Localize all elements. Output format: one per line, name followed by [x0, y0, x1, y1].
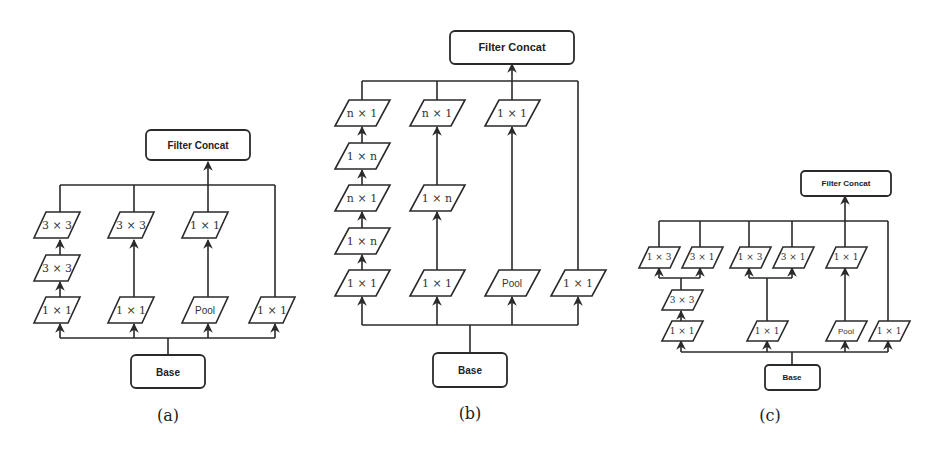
svg-text:3 × 3: 3 × 3	[42, 262, 72, 275]
node-b-b1-nx1-mid: n × 1	[335, 185, 390, 211]
caption-a: (a)	[157, 406, 179, 425]
panel-c: Filter Concat 1 × 3 3 × 1 1 × 3 3 × 1 1 …	[639, 171, 910, 425]
svg-text:Base: Base	[458, 365, 482, 376]
svg-text:1 × n: 1 × n	[422, 192, 452, 205]
node-a-b1-3x3-mid: 3 × 3	[34, 255, 80, 281]
node-b-b1-nx1-top: n × 1	[335, 100, 390, 126]
node-c-b3-pool: Pool	[826, 321, 867, 341]
node-c-b1-1x3: 1 × 3	[639, 247, 680, 268]
svg-text:3 × 1: 3 × 1	[781, 252, 806, 262]
svg-text:Pool: Pool	[838, 327, 854, 336]
svg-text:1 × 1: 1 × 1	[563, 277, 593, 290]
svg-text:1 × 3: 1 × 3	[738, 252, 763, 262]
node-c-b2-1x1: 1 × 1	[747, 321, 788, 341]
filter-concat-box-a: Filter Concat	[146, 130, 250, 160]
svg-text:n × 1: n × 1	[347, 192, 377, 205]
node-a-b2-3x3: 3 × 3	[108, 212, 154, 238]
svg-text:1 × 3: 1 × 3	[647, 252, 672, 262]
base-box-b: Base	[433, 353, 507, 387]
node-a-b3-1x1: 1 × 1	[182, 212, 228, 238]
node-a-b2-1x1: 1 × 1	[108, 297, 154, 323]
svg-text:1 × 1: 1 × 1	[834, 252, 859, 262]
node-c-b4-1x1: 1 × 1	[869, 321, 910, 341]
inception-modules-figure: Filter Concat 3 × 3 3 × 3 1 × 1 3 × 3 1 …	[0, 0, 936, 452]
node-c-b1-1x1: 1 × 1	[662, 321, 703, 341]
svg-text:Filter Concat: Filter Concat	[478, 41, 546, 53]
svg-text:3 × 3: 3 × 3	[670, 295, 695, 305]
svg-text:1 × n: 1 × n	[347, 235, 377, 248]
svg-text:n × 1: n × 1	[422, 107, 452, 120]
node-a-b3-pool: Pool	[182, 297, 228, 323]
base-box-c: Base	[765, 365, 820, 390]
svg-text:1 × 1: 1 × 1	[190, 219, 220, 232]
node-b-b3-1x1: 1 × 1	[485, 100, 540, 126]
node-a-b4-1x1: 1 × 1	[249, 297, 295, 323]
svg-text:1 × 1: 1 × 1	[670, 326, 695, 336]
node-c-b3-1x1: 1 × 1	[826, 247, 867, 268]
connectors-a	[60, 162, 275, 355]
node-b-b1-1xn-upper: 1 × n	[335, 143, 390, 169]
svg-text:1 × 1: 1 × 1	[422, 277, 452, 290]
node-b-b2-1x1: 1 × 1	[410, 270, 465, 296]
caption-c: (c)	[759, 406, 780, 425]
svg-text:Pool: Pool	[195, 305, 215, 316]
svg-text:1 × 1: 1 × 1	[497, 107, 527, 120]
svg-text:1 × 1: 1 × 1	[257, 304, 287, 317]
filter-concat-label: Filter Concat	[167, 140, 229, 151]
svg-text:1 × n: 1 × n	[347, 150, 377, 163]
svg-text:n × 1: n × 1	[347, 107, 377, 120]
svg-text:Pool: Pool	[502, 278, 522, 289]
svg-text:3 × 3: 3 × 3	[116, 219, 146, 232]
caption-b: (b)	[459, 404, 482, 423]
node-b-b1-1xn-lower: 1 × n	[335, 228, 390, 254]
node-b-b2-1xn: 1 × n	[410, 185, 465, 211]
svg-text:1 × 1: 1 × 1	[116, 304, 146, 317]
panel-a: Filter Concat 3 × 3 3 × 3 1 × 1 3 × 3 1 …	[34, 130, 295, 425]
node-a-b1-3x3-top: 3 × 3	[34, 212, 80, 238]
svg-text:Filter Concat: Filter Concat	[822, 179, 871, 188]
node-b-b4-1x1: 1 × 1	[551, 270, 606, 296]
svg-text:3 × 1: 3 × 1	[690, 252, 715, 262]
filter-concat-box-b: Filter Concat	[450, 31, 574, 64]
filter-concat-box-c: Filter Concat	[801, 171, 891, 196]
node-c-b2-3x1: 3 × 1	[773, 247, 814, 268]
base-box-a: Base	[131, 355, 205, 388]
node-b-b3-pool: Pool	[485, 270, 540, 296]
svg-text:Base: Base	[782, 373, 802, 382]
connectors-b	[362, 64, 578, 353]
node-c-b1-3x1: 3 × 1	[682, 247, 723, 268]
svg-text:Base: Base	[156, 367, 180, 378]
svg-text:3 × 3: 3 × 3	[42, 219, 72, 232]
node-c-b1-3x3: 3 × 3	[662, 290, 703, 310]
svg-text:1 × 1: 1 × 1	[755, 326, 780, 336]
svg-text:1 × 1: 1 × 1	[42, 304, 72, 317]
node-a-b1-1x1: 1 × 1	[34, 297, 80, 323]
node-b-b2-nx1: n × 1	[410, 100, 465, 126]
svg-text:1 × 1: 1 × 1	[347, 277, 377, 290]
node-c-b2-1x3: 1 × 3	[730, 247, 771, 268]
node-b-b1-1x1: 1 × 1	[335, 270, 390, 296]
svg-text:1 × 1: 1 × 1	[877, 326, 902, 336]
panel-b: Filter Concat n × 1 1 × n n × 1 1 × n 1 …	[335, 31, 606, 423]
